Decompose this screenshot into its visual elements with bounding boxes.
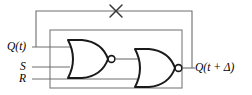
nor-gate-1 (68, 40, 108, 78)
input-label-r: R (19, 73, 26, 85)
circuit-diagram-figure: Q(t) S R Q(t + Δ) (0, 0, 252, 95)
output-label-q-next: Q(t + Δ) (195, 62, 234, 74)
input-label-q: Q(t) (7, 41, 26, 53)
nor-gate-2-bubble (175, 65, 182, 72)
nor-gate-2 (135, 49, 175, 87)
nor-gate-1-bubble (108, 56, 115, 63)
input-label-s: S (20, 61, 26, 73)
circuit-schematic-svg (0, 0, 252, 95)
